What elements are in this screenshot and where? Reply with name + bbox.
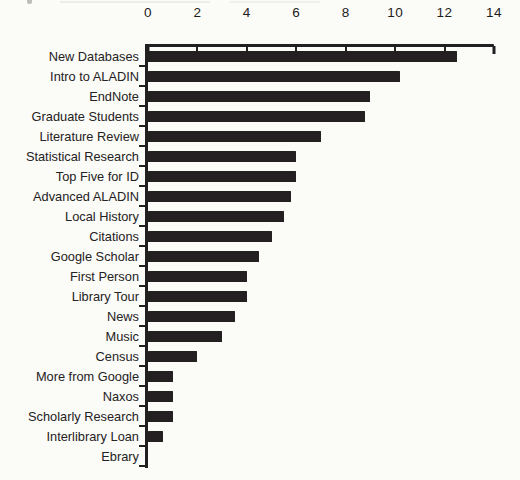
bar-track [148, 286, 494, 306]
category-label: Statistical Research [0, 149, 148, 164]
category-label: Music [0, 329, 148, 344]
bar-track [148, 406, 494, 426]
bar [148, 291, 247, 302]
bar-row: Music [0, 326, 494, 346]
cropped-caption-remnant [60, 1, 210, 3]
bar [148, 211, 284, 222]
category-label: Literature Review [0, 129, 148, 144]
bar [148, 231, 272, 242]
bar-row: Ebrary [0, 446, 494, 466]
x-tick-label: 12 [437, 5, 453, 20]
bar-row: More from Google [0, 366, 494, 386]
x-tick-label: 8 [342, 5, 350, 20]
category-label: First Person [0, 269, 148, 284]
bar-chart: 02468101214 New DatabasesIntro to ALADIN… [0, 0, 520, 480]
category-label: Advanced ALADIN [0, 189, 148, 204]
category-label: Census [0, 349, 148, 364]
bar-track [148, 186, 494, 206]
bar-track [148, 446, 494, 466]
category-label: News [0, 309, 148, 324]
bar-track [148, 386, 494, 406]
category-label: Google Scholar [0, 249, 148, 264]
bar-row: Graduate Students [0, 106, 494, 126]
bar-track [148, 126, 494, 146]
bar-row: Google Scholar [0, 246, 494, 266]
x-tick-label: 2 [193, 5, 201, 20]
x-tick-label: 4 [243, 5, 251, 20]
bar-track [148, 66, 494, 86]
category-label: Library Tour [0, 289, 148, 304]
bar [148, 331, 222, 342]
bar-track [148, 146, 494, 166]
category-label: More from Google [0, 369, 148, 384]
bar-track [148, 306, 494, 326]
cropped-caption-remnant [27, 0, 32, 4]
x-tick-label: 6 [292, 5, 300, 20]
bar-track [148, 206, 494, 226]
bar [148, 91, 370, 102]
bar [148, 131, 321, 142]
category-label: New Databases [0, 49, 148, 64]
bar [148, 251, 259, 262]
bar-track [148, 266, 494, 286]
category-label: Interlibrary Loan [0, 429, 148, 444]
bar [148, 191, 291, 202]
category-label: Graduate Students [0, 109, 148, 124]
category-label: Citations [0, 229, 148, 244]
bar [148, 111, 365, 122]
bar-track [148, 366, 494, 386]
x-tick-label: 0 [144, 5, 152, 20]
bar-row: Citations [0, 226, 494, 246]
bar-track [148, 86, 494, 106]
bar-row: Intro to ALADIN [0, 66, 494, 86]
bar-row: Statistical Research [0, 146, 494, 166]
bar-track [148, 326, 494, 346]
bar-track [148, 346, 494, 366]
bar [148, 311, 235, 322]
bar [148, 171, 296, 182]
bar [148, 151, 296, 162]
bar-track [148, 106, 494, 126]
bar [148, 51, 457, 62]
bar-row: EndNote [0, 86, 494, 106]
bar-row: New Databases [0, 46, 494, 66]
bar-rows: New DatabasesIntro to ALADINEndNoteGradu… [0, 46, 494, 466]
category-label: EndNote [0, 89, 148, 104]
bar [148, 371, 173, 382]
bar-track [148, 226, 494, 246]
category-label: Local History [0, 209, 148, 224]
bar-row: Scholarly Research [0, 406, 494, 426]
category-label: Top Five for ID [0, 169, 148, 184]
bar-row: Literature Review [0, 126, 494, 146]
category-label: Naxos [0, 389, 148, 404]
bar-row: Census [0, 346, 494, 366]
bar [148, 431, 163, 442]
bar-row: Library Tour [0, 286, 494, 306]
bar-track [148, 246, 494, 266]
bar-row: Top Five for ID [0, 166, 494, 186]
bar-track [148, 166, 494, 186]
x-tick-label: 14 [486, 5, 502, 20]
bar-row: Interlibrary Loan [0, 426, 494, 446]
bar [148, 411, 173, 422]
bar-row: Naxos [0, 386, 494, 406]
bar-row: Local History [0, 206, 494, 226]
bar [148, 271, 247, 282]
bar-track [148, 46, 494, 66]
bar [148, 71, 400, 82]
bar-row: First Person [0, 266, 494, 286]
bar [148, 351, 197, 362]
category-label: Scholarly Research [0, 409, 148, 424]
bar-row: News [0, 306, 494, 326]
x-tick-label: 10 [387, 5, 403, 20]
category-label: Intro to ALADIN [0, 69, 148, 84]
cropped-caption-remnant [230, 1, 320, 3]
bar-track [148, 426, 494, 446]
bar [148, 391, 173, 402]
bar-row: Advanced ALADIN [0, 186, 494, 206]
category-label: Ebrary [0, 449, 148, 464]
